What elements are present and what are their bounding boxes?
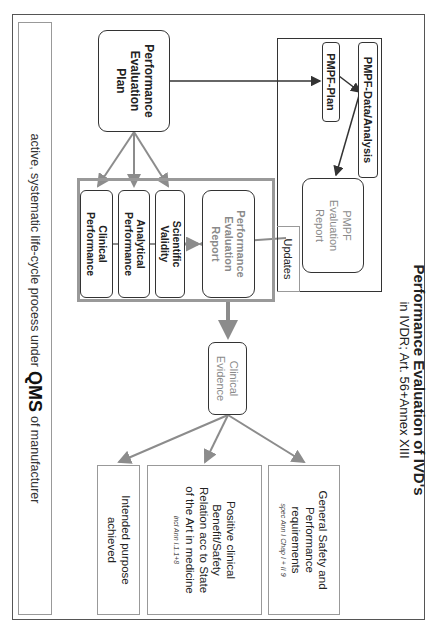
outcome-general-safety-note: spec Ann I Chap I + II 9 (279, 503, 287, 576)
outcome-intended-purpose: Intended purpose achieved (97, 465, 140, 615)
qms-footer-bar: active, systematic life-cycle process un… (18, 22, 52, 615)
scientific-validity-label: Scientific Validity (158, 209, 181, 279)
updates-label: Updates (282, 239, 294, 280)
pmpf-evaluation-report-node: PMPF Evaluation Report (302, 178, 364, 273)
clinical-performance-node: Clinical Performance (80, 190, 113, 298)
performance-evaluation-report-label: Performance Evaluation Report (210, 204, 248, 284)
diagram-canvas: Performance Evaluation of IVD's in IVDR;… (0, 0, 436, 635)
outcome-intended-purpose-label: Intended purpose achieved (105, 480, 133, 600)
outcome-positive-benefit: Positive clinical Benefit/Safety Relatio… (147, 465, 262, 615)
outcome-positive-benefit-note: incl Ann I.1.1+8 (172, 516, 180, 564)
qms-footer-prefix: active, systematic life-cycle process un… (28, 134, 42, 367)
clinical-performance-label: Clinical Performance (85, 204, 108, 284)
pmpf-data-analysis-node: PMPF-Data/Analysis (358, 42, 378, 178)
clinical-evidence-label: Clinical Evidence (215, 349, 240, 409)
pmpf-evaluation-report-label: PMPF Evaluation Report (313, 196, 353, 256)
pmpf-data-analysis-label: PMPF-Data/Analysis (362, 57, 374, 163)
qms-footer-suffix: of manufacturer (28, 416, 42, 504)
performance-evaluation-plan-node: Performance Evaluation Plan (98, 30, 170, 132)
clinical-evidence-node: Clinical Evidence (208, 342, 247, 415)
qms-footer-emphasis: QMS (25, 371, 46, 412)
pmpf-plan-node: PMPF-Plan (322, 42, 340, 122)
performance-evaluation-plan-label: Performance Evaluation Plan (113, 41, 154, 121)
scientific-validity-node: Scientific Validity (155, 190, 185, 298)
performance-evaluation-report-node: Performance Evaluation Report (202, 190, 255, 298)
analytical-performance-node: Analytical Performance (118, 190, 150, 298)
updates-box: Updates (277, 226, 300, 292)
outcome-positive-benefit-label: Positive clinical Benefit/Safety Relatio… (182, 485, 237, 595)
analytical-performance-label: Analytical Performance (122, 204, 145, 284)
outcome-general-safety-label: General Safety and Performance requireme… (289, 485, 329, 595)
outcome-general-safety: General Safety and Performance requireme… (268, 465, 340, 615)
pmpf-plan-label: PMPF-Plan (325, 53, 337, 110)
